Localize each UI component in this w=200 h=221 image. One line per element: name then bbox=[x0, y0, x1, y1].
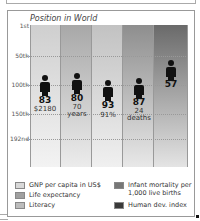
rank-infant-mortality: 87 bbox=[124, 97, 154, 107]
value-literacy: 91% bbox=[93, 112, 123, 119]
person-icon bbox=[102, 80, 114, 101]
legend-swatch bbox=[114, 182, 124, 189]
rank-human-dev-index: 57 bbox=[156, 79, 186, 89]
unit-infant-mortality: deaths bbox=[124, 115, 154, 122]
unit-life-expectancy: years bbox=[62, 111, 92, 118]
legend-swatch bbox=[114, 202, 124, 209]
person-icon bbox=[133, 78, 145, 99]
chart-title: Position in World bbox=[30, 14, 97, 23]
top-border bbox=[6, 0, 196, 4]
y-tick-1st: 1st bbox=[7, 22, 29, 29]
person-icon bbox=[39, 75, 51, 96]
rank-life-expectancy: 80 bbox=[62, 93, 92, 103]
legend-swatch bbox=[15, 202, 25, 209]
rank-literacy: 93 bbox=[93, 100, 123, 110]
gridline-50th bbox=[26, 56, 188, 57]
value-gnp: $2180 bbox=[30, 106, 60, 113]
column-human-dev-index bbox=[154, 25, 188, 167]
gridline-192nd bbox=[26, 139, 188, 140]
person-icon bbox=[165, 60, 177, 81]
legend-swatch bbox=[15, 182, 25, 189]
rank-gnp: 83 bbox=[30, 95, 60, 105]
corner-mark bbox=[196, 215, 199, 218]
legend-swatch bbox=[15, 192, 25, 199]
person-icon bbox=[71, 73, 83, 94]
